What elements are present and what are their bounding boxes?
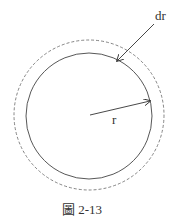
radius-arrow	[90, 101, 150, 115]
figure-2-13: dr r 圖 2-13	[0, 0, 177, 223]
dr-label: dr	[155, 8, 166, 24]
r-label: r	[112, 112, 116, 128]
outer-dashed-circle	[14, 40, 164, 190]
dr-arrow	[117, 24, 154, 61]
inner-circle	[26, 53, 152, 179]
figure-caption: 圖 2-13	[62, 199, 102, 218]
circle-diagram	[0, 0, 177, 223]
